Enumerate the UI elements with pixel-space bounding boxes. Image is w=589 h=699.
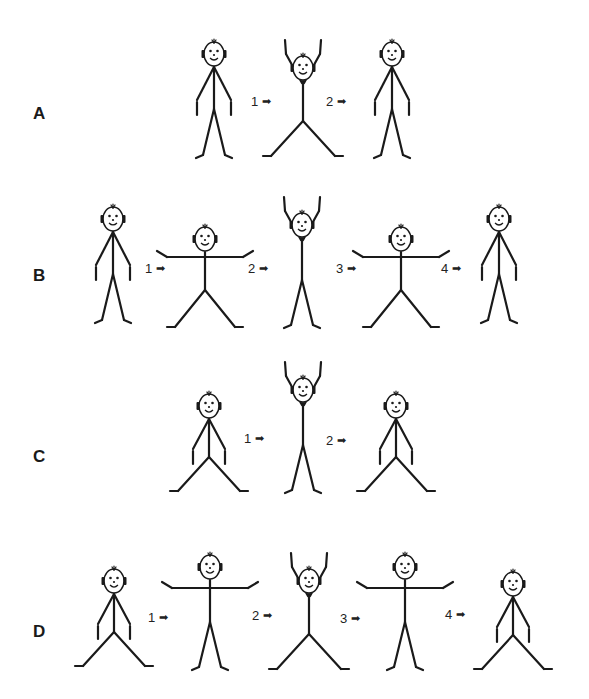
step-label: 1➡	[148, 610, 168, 625]
stick-figure-stand	[95, 204, 131, 323]
stick-figure-arms-out-legs-wide	[353, 224, 449, 327]
right-arrow-icon: ➡	[347, 262, 356, 275]
stick-figure-hands-up-legs-closed	[285, 362, 321, 493]
row-label-a: A	[33, 104, 45, 124]
right-arrow-icon: ➡	[337, 434, 346, 447]
step-label: 2➡	[326, 94, 346, 109]
step-label: 4➡	[445, 607, 465, 622]
stick-figure-arms-down-legs-wide	[170, 391, 248, 491]
right-arrow-icon: ➡	[262, 95, 271, 108]
step-number: 2	[326, 94, 333, 109]
right-arrow-icon: ➡	[259, 262, 268, 275]
step-number: 1	[251, 94, 258, 109]
row-label-c: C	[33, 447, 45, 467]
right-arrow-icon: ➡	[337, 95, 346, 108]
step-number: 3	[336, 261, 343, 276]
step-label: 2➡	[252, 608, 272, 623]
stick-figure-arms-out-legs-closed	[162, 552, 258, 670]
right-arrow-icon: ➡	[351, 612, 360, 625]
exercise-diagram-canvas	[0, 0, 589, 699]
row-label-b: B	[33, 266, 45, 286]
stick-figure-arms-out-legs-closed	[357, 552, 453, 670]
right-arrow-icon: ➡	[452, 262, 461, 275]
stick-figure-arms-down-legs-wide	[357, 391, 435, 491]
step-number: 2	[248, 261, 255, 276]
right-arrow-icon: ➡	[255, 432, 264, 445]
step-label: 2➡	[248, 261, 268, 276]
step-number: 4	[445, 607, 452, 622]
row-label-d: D	[33, 622, 45, 642]
stick-figure-stand	[374, 39, 410, 158]
right-arrow-icon: ➡	[156, 262, 165, 275]
step-number: 2	[252, 608, 259, 623]
stick-figure-hands-up-legs-closed	[284, 197, 320, 328]
step-label: 3➡	[336, 261, 356, 276]
step-label: 3➡	[340, 611, 360, 626]
row-c-figures	[170, 362, 435, 493]
stick-figure-hands-up-legs-wide	[269, 553, 349, 669]
right-arrow-icon: ➡	[456, 608, 465, 621]
step-number: 1	[145, 261, 152, 276]
stick-figure-stand	[481, 204, 517, 323]
right-arrow-icon: ➡	[159, 611, 168, 624]
step-number: 2	[326, 433, 333, 448]
step-label: 4➡	[441, 261, 461, 276]
stick-figure-arms-down-legs-wide	[75, 566, 153, 666]
step-number: 1	[148, 610, 155, 625]
step-label: 1➡	[145, 261, 165, 276]
row-a-figures	[196, 39, 410, 158]
stick-figure-arms-out-legs-wide	[157, 224, 253, 327]
step-number: 4	[441, 261, 448, 276]
step-number: 3	[340, 611, 347, 626]
step-label: 2➡	[326, 433, 346, 448]
step-label: 1➡	[244, 431, 264, 446]
right-arrow-icon: ➡	[263, 609, 272, 622]
row-d-figures	[75, 552, 552, 670]
stick-figure-arms-down-legs-wide	[474, 569, 552, 669]
step-number: 1	[244, 431, 251, 446]
step-label: 1➡	[251, 94, 271, 109]
stick-figure-stand	[196, 39, 232, 158]
